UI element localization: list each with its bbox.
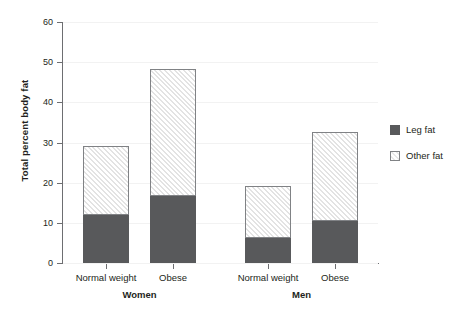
y-tick-label: 40 <box>7 97 53 107</box>
bar-segment-leg-fat <box>150 195 196 263</box>
y-tick-mark <box>57 22 62 23</box>
bar <box>83 22 129 263</box>
y-tick-label: 0 <box>7 258 53 268</box>
x-category-label: Obese <box>280 272 390 283</box>
y-tick-label: 60 <box>7 17 53 27</box>
bar-segment-other-fat <box>312 132 358 221</box>
bar-segment-other-fat <box>83 146 129 215</box>
y-tick-mark <box>57 102 62 103</box>
x-tick-mark <box>106 264 107 269</box>
legend-item-label: Leg fat <box>406 124 435 136</box>
y-tick-mark <box>57 223 62 224</box>
bar-segment-other-fat <box>150 69 196 196</box>
x-group-label-men: Men <box>222 289 382 300</box>
x-tick-mark <box>173 264 174 269</box>
x-tick-mark <box>268 264 269 269</box>
x-tick-mark <box>335 264 336 269</box>
legend-swatch-leg-fat <box>390 125 400 135</box>
y-tick-label: 30 <box>7 138 53 148</box>
bar-segment-leg-fat <box>312 220 358 263</box>
gridline <box>63 263 378 264</box>
bar-segment-leg-fat <box>83 214 129 263</box>
y-tick-mark <box>57 263 62 264</box>
bar <box>150 22 196 263</box>
bar-segment-leg-fat <box>245 237 291 263</box>
y-tick-label: 50 <box>7 57 53 67</box>
y-tick-mark <box>57 62 62 63</box>
legend-item-label: Other fat <box>406 150 443 162</box>
y-tick-mark <box>57 143 62 144</box>
y-tick-label: 20 <box>7 178 53 188</box>
bar-segment-other-fat <box>245 186 291 238</box>
y-tick-label: 10 <box>7 218 53 228</box>
plot-area <box>63 22 378 263</box>
stacked-bar-chart: Total percent body fat 0102030405060 Nor… <box>0 0 463 311</box>
bar <box>312 22 358 263</box>
legend-swatch-other-fat <box>390 151 400 161</box>
y-tick-mark <box>57 183 62 184</box>
bar <box>245 22 291 263</box>
x-group-label-women: Women <box>60 289 220 300</box>
x-category-label: Obese <box>118 272 228 283</box>
